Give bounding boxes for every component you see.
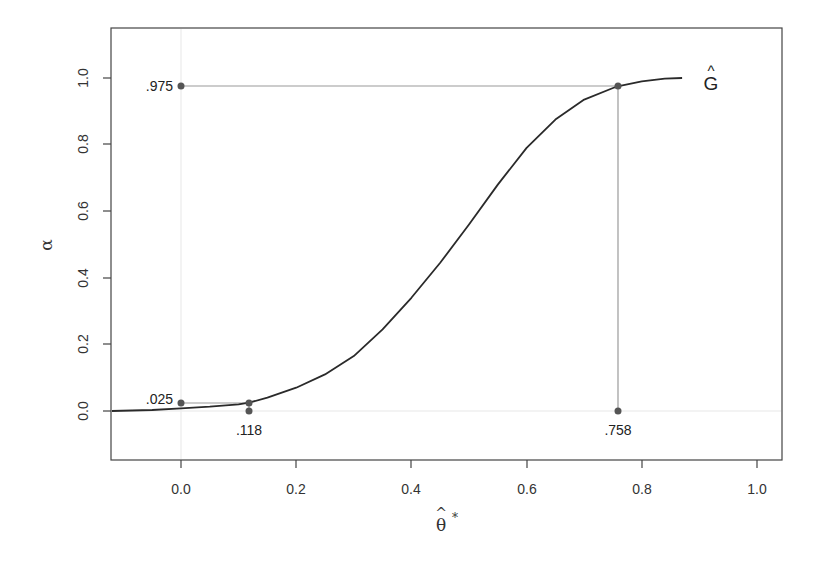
y-tick-label: 0.0 bbox=[75, 401, 91, 421]
plot-frame bbox=[111, 28, 782, 460]
annotation-025: .025 bbox=[146, 391, 173, 407]
cdf-curve bbox=[112, 78, 682, 411]
annotation-975: .975 bbox=[146, 78, 173, 94]
point-025-axis bbox=[178, 400, 185, 407]
x-axis-star: * bbox=[452, 511, 458, 525]
x-tick-label: 0.8 bbox=[632, 481, 652, 497]
point-975-axis bbox=[178, 83, 185, 90]
curve-label: ^ G bbox=[704, 62, 719, 94]
x-tick-label: 0.0 bbox=[171, 481, 191, 497]
y-tick-label: 0.6 bbox=[75, 201, 91, 221]
annotation-118: .118 bbox=[236, 422, 262, 438]
reference-lines bbox=[181, 86, 618, 411]
y-tick-label: 0.2 bbox=[75, 334, 91, 354]
x-axis-label: ^ θ * bbox=[435, 505, 458, 535]
cdf-chart: 0.0 0.2 0.4 0.6 0.8 1.0 0.0 0.2 0.4 0.6 … bbox=[0, 0, 823, 567]
point-758-axis bbox=[615, 408, 622, 415]
point-975-curve bbox=[615, 83, 622, 90]
y-axis bbox=[103, 78, 111, 411]
annotation-758: .758 bbox=[604, 422, 631, 438]
point-025-curve bbox=[246, 400, 253, 407]
y-axis-label: α bbox=[36, 239, 56, 251]
curve-label-g: G bbox=[704, 73, 719, 94]
x-tick-label: 1.0 bbox=[747, 481, 767, 497]
x-tick-label: 0.6 bbox=[517, 481, 537, 497]
x-axis-theta: θ bbox=[436, 515, 446, 535]
y-tick-label: 1.0 bbox=[75, 68, 91, 88]
marker-points bbox=[178, 83, 622, 415]
x-tick-label: 0.2 bbox=[286, 481, 306, 497]
y-tick-label: 0.8 bbox=[75, 134, 91, 154]
x-axis bbox=[181, 460, 757, 468]
y-tick-label: 0.4 bbox=[75, 268, 91, 288]
x-tick-label: 0.4 bbox=[401, 481, 421, 497]
point-118-axis bbox=[246, 408, 253, 415]
